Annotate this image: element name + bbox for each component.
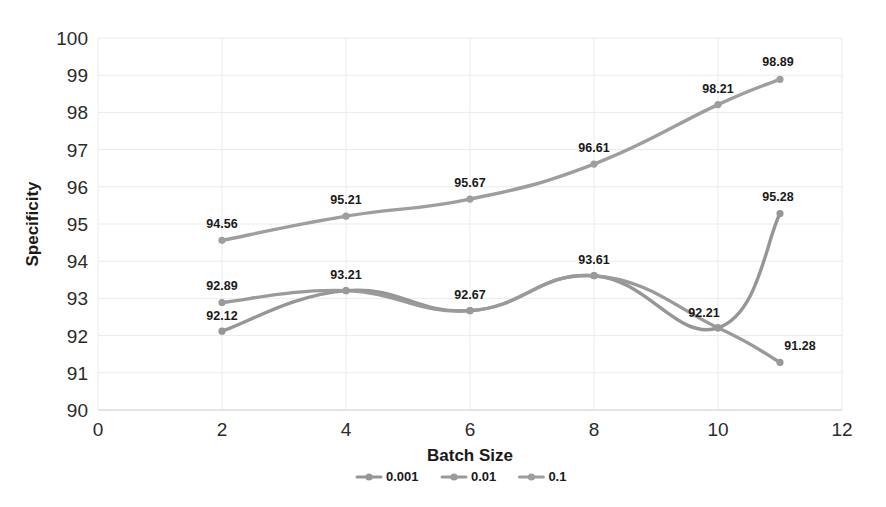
y-tick-label: 95 bbox=[67, 214, 88, 235]
data-point-marker bbox=[776, 76, 783, 83]
y-tick-label: 100 bbox=[56, 28, 88, 49]
data-point-label: 91.28 bbox=[784, 339, 815, 353]
data-point-marker bbox=[466, 195, 473, 202]
data-point-marker bbox=[218, 237, 225, 244]
legend-label-0.01[interactable]: 0.01 bbox=[471, 469, 496, 484]
data-point-label: 98.89 bbox=[762, 55, 793, 69]
data-point-marker bbox=[714, 324, 721, 331]
x-tick-label: 10 bbox=[707, 419, 728, 440]
x-tick-label: 2 bbox=[217, 419, 228, 440]
legend-marker-0.01 bbox=[450, 473, 457, 480]
data-point-label: 94.56 bbox=[206, 217, 237, 231]
data-point-label: 93.21 bbox=[330, 268, 361, 282]
data-point-marker bbox=[466, 307, 473, 314]
y-tick-label: 90 bbox=[67, 400, 88, 421]
x-axis-title: Batch Size bbox=[427, 446, 513, 465]
data-point-label: 96.61 bbox=[578, 141, 609, 155]
data-point-label: 92.67 bbox=[454, 288, 485, 302]
y-tick-label: 97 bbox=[67, 140, 88, 161]
legend-label-0.1[interactable]: 0.1 bbox=[548, 469, 566, 484]
legend-label-0.001[interactable]: 0.001 bbox=[386, 469, 419, 484]
data-point-label: 98.21 bbox=[702, 82, 733, 96]
chart-background bbox=[0, 0, 886, 507]
data-point-marker bbox=[342, 213, 349, 220]
data-point-label: 92.12 bbox=[206, 309, 237, 323]
y-tick-label: 96 bbox=[67, 177, 88, 198]
data-point-label: 92.89 bbox=[206, 279, 237, 293]
x-tick-label: 4 bbox=[341, 419, 352, 440]
data-point-marker bbox=[714, 101, 721, 108]
y-tick-label: 98 bbox=[67, 102, 88, 123]
y-tick-label: 94 bbox=[67, 251, 89, 272]
y-tick-label: 99 bbox=[67, 65, 88, 86]
data-point-marker bbox=[342, 287, 349, 294]
x-tick-label: 8 bbox=[589, 419, 600, 440]
data-point-marker bbox=[218, 328, 225, 335]
data-point-marker bbox=[590, 161, 597, 168]
data-point-marker bbox=[776, 359, 783, 366]
data-point-label: 92.21 bbox=[688, 306, 719, 320]
chart-canvas: 92.1293.2192.6793.6192.2195.2892.8991.28… bbox=[0, 0, 886, 507]
line-chart: 92.1293.2192.6793.6192.2195.2892.8991.28… bbox=[0, 0, 886, 507]
y-tick-label: 93 bbox=[67, 288, 88, 309]
legend-marker-0.1 bbox=[528, 473, 535, 480]
legend-marker-0.001 bbox=[365, 473, 372, 480]
y-tick-label: 91 bbox=[67, 363, 88, 384]
data-point-marker bbox=[590, 272, 597, 279]
x-tick-label: 0 bbox=[93, 419, 104, 440]
data-point-marker bbox=[218, 299, 225, 306]
data-point-marker bbox=[776, 210, 783, 217]
x-tick-label: 6 bbox=[465, 419, 476, 440]
y-tick-label: 92 bbox=[67, 326, 88, 347]
data-point-label: 95.28 bbox=[762, 190, 793, 204]
x-tick-label: 12 bbox=[831, 419, 852, 440]
data-point-label: 93.61 bbox=[578, 253, 609, 267]
data-point-label: 95.21 bbox=[330, 193, 361, 207]
data-point-label: 95.67 bbox=[454, 176, 485, 190]
y-axis-title: Specificity bbox=[23, 181, 42, 267]
